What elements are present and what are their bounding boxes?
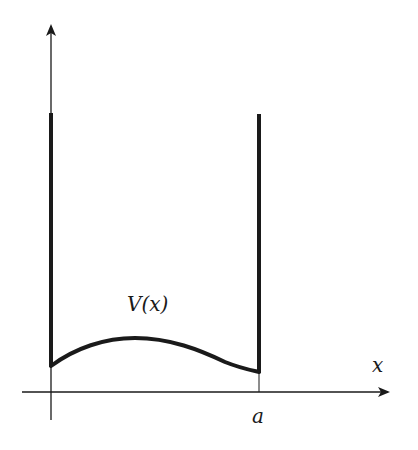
potential-well-diagram: V(x) x a xyxy=(0,0,418,450)
potential-label: V(x) xyxy=(127,292,168,316)
potential-curve xyxy=(51,338,259,372)
wall-position-label: a xyxy=(252,404,264,428)
x-axis-label: x xyxy=(372,353,383,377)
